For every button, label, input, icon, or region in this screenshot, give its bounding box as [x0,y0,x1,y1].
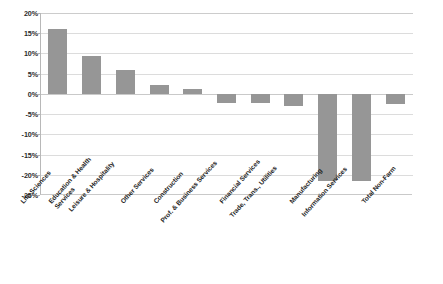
y-tick-label-10: 10% [2,49,38,58]
bar-total-non-farm [386,94,405,104]
y-tick-label-5: 5% [2,69,38,78]
y-tick-label-m15: -15% [2,150,38,159]
bar-trade-trans-utilities [284,94,303,106]
y-tick-label-m5: -5% [2,110,38,119]
y-tick-label-15: 15% [2,29,38,38]
bar-other-services [150,85,169,94]
bar-education-health-services [82,56,101,94]
bar-chart: 20% 15% 10% 5% 0% -5% -10% -15% -20% -25… [0,0,443,284]
bar-leisure-hospitality [116,70,135,94]
bar-manufacturing [318,94,337,181]
bar-life-sciences [48,29,67,94]
y-tick-label-0: 0% [2,89,38,98]
y-tick-label-m10: -10% [2,130,38,139]
bar-information-services [352,94,371,181]
y-tick-label-m20: -20% [2,170,38,179]
bar-construction [183,89,202,94]
x-axis-labels: Life Sciences Education & HealthServices… [0,196,443,284]
y-tick-label-20: 20% [2,9,38,18]
bar-prof-business-services [217,94,236,103]
y-axis: 20% 15% 10% 5% 0% -5% -10% -15% -20% -25… [0,13,38,195]
bar-financial-services [251,94,270,103]
